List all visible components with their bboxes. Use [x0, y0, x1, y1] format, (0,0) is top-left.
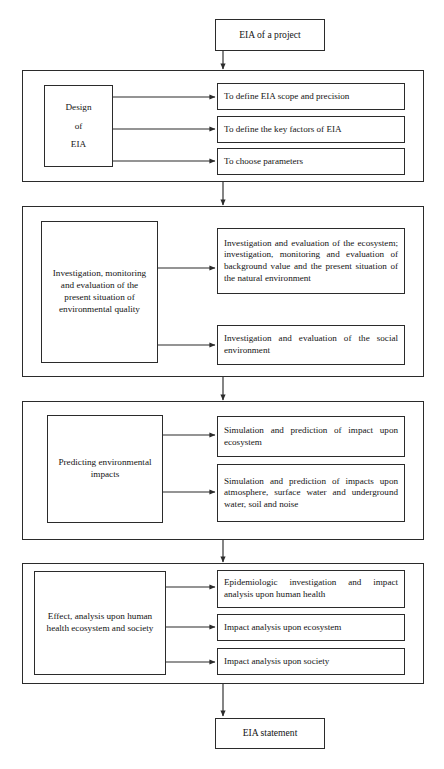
output-box-define-scope-label: To define EIA scope and precision: [218, 91, 404, 103]
output-box-choose-parameters-label: To choose parameters: [218, 156, 404, 168]
start-box-eia-of-a-project[interactable]: EIA of a project: [215, 19, 325, 51]
output-box-key-factors-label: To define the key factors of EIA: [218, 124, 404, 136]
stage-box-investigation-label: Investigation, monitoring and evaluation…: [42, 268, 157, 315]
output-box-simulation-ecosystem-label: Simulation and prediction of impact upon…: [218, 425, 404, 448]
flowchart-diagram: EIA of a project Design of EIA To define…: [0, 0, 444, 769]
output-box-simulation-atmosphere-water-soil-noise[interactable]: Simulation and prediction of impacts upo…: [217, 464, 405, 522]
stage-box-design-line-3: EIA: [66, 135, 91, 153]
end-box-label: EIA statement: [238, 727, 303, 739]
output-box-ecosystem-background-value-label: Investigation and evaluation of the ecos…: [218, 238, 404, 285]
output-box-define-scope[interactable]: To define EIA scope and precision: [217, 83, 405, 110]
output-box-impact-society-label: Impact analysis upon society: [218, 656, 404, 668]
stage-box-predicting-environmental-impacts[interactable]: Predicting environmental impacts: [47, 415, 163, 523]
output-box-impact-ecosystem[interactable]: Impact analysis upon ecosystem: [217, 614, 405, 641]
output-box-simulation-atmosphere-label: Simulation and prediction of impacts upo…: [218, 476, 404, 511]
output-box-ecosystem-background-value[interactable]: Investigation and evaluation of the ecos…: [217, 228, 405, 294]
output-box-epidemiologic-label: Epidemiologic investigation and impact a…: [218, 577, 404, 600]
output-box-key-factors[interactable]: To define the key factors of EIA: [217, 116, 405, 143]
output-box-social-environment-label: Investigation and evaluation of the soci…: [218, 333, 404, 356]
end-box-eia-statement[interactable]: EIA statement: [215, 718, 325, 749]
stage-box-design-line-1: Design: [60, 98, 96, 116]
stage-box-investigation-monitoring[interactable]: Investigation, monitoring and evaluation…: [41, 221, 158, 363]
output-box-social-environment[interactable]: Investigation and evaluation of the soci…: [217, 325, 405, 365]
output-box-choose-parameters[interactable]: To choose parameters: [217, 148, 405, 175]
output-box-simulation-ecosystem[interactable]: Simulation and prediction of impact upon…: [217, 416, 405, 457]
stage-box-prediction-label: Predicting environmental impacts: [48, 457, 162, 481]
stage-box-effect-analysis-label: Effect, analysis upon human health ecosy…: [35, 611, 165, 635]
stage-box-design-of-eia[interactable]: Design of EIA: [44, 85, 113, 167]
output-box-epidemiologic-investigation[interactable]: Epidemiologic investigation and impact a…: [217, 570, 405, 608]
stage-box-effect-analysis[interactable]: Effect, analysis upon human health ecosy…: [34, 571, 166, 675]
output-box-impact-ecosystem-label: Impact analysis upon ecosystem: [218, 622, 404, 634]
stage-box-design-line-2: of: [70, 117, 88, 135]
start-box-label: EIA of a project: [234, 29, 306, 41]
output-box-impact-society[interactable]: Impact analysis upon society: [217, 648, 405, 675]
